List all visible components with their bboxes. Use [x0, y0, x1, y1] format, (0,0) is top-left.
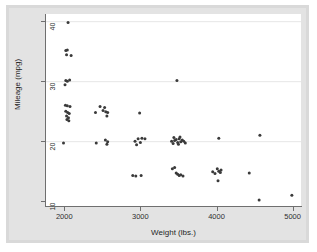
data-point [64, 83, 67, 86]
y-tick-label-20: 20 [49, 140, 56, 154]
x-tick-4000 [217, 207, 218, 211]
y-axis-title: Mileage (mpg) [13, 59, 22, 110]
data-point [217, 137, 220, 140]
data-point [65, 53, 68, 56]
gridlines [46, 22, 301, 142]
data-point [68, 112, 71, 115]
data-point [175, 79, 178, 82]
data-point [134, 140, 137, 143]
data-point [184, 142, 187, 145]
data-points [62, 21, 293, 202]
x-tick-2000 [64, 207, 65, 211]
data-point [137, 137, 140, 140]
data-point [139, 141, 142, 144]
data-point [217, 179, 220, 182]
data-point [172, 136, 175, 139]
data-point [134, 175, 137, 178]
y-tick-10 [41, 201, 45, 202]
data-point [106, 111, 109, 114]
data-point [62, 142, 65, 145]
data-point [103, 106, 106, 109]
data-point [102, 109, 105, 112]
y-axis-line [45, 14, 46, 207]
data-point [70, 54, 73, 57]
data-point [220, 169, 223, 172]
data-point [290, 194, 293, 197]
data-point [94, 111, 97, 114]
plot-svg [46, 14, 301, 206]
data-point [140, 137, 143, 140]
data-point [143, 137, 146, 140]
data-point [140, 174, 143, 177]
data-point [258, 134, 261, 137]
data-point [177, 143, 180, 146]
data-point [258, 199, 261, 202]
x-tick-5000 [293, 207, 294, 211]
data-point [67, 119, 70, 122]
x-tick-label-2000: 2000 [44, 212, 84, 221]
data-point [135, 143, 138, 146]
y-tick-label-40: 40 [49, 20, 56, 34]
data-point [106, 140, 109, 143]
data-point [67, 21, 70, 24]
x-tick-label-5000: 5000 [273, 212, 313, 221]
data-point [138, 112, 141, 115]
x-tick-label-3000: 3000 [120, 212, 160, 221]
data-point [248, 172, 251, 175]
data-point [95, 142, 98, 145]
data-point [99, 105, 102, 108]
x-axis-line [45, 206, 302, 207]
x-tick-3000 [140, 207, 141, 211]
data-point [64, 49, 67, 52]
y-tick-40 [41, 21, 45, 22]
y-tick-30 [41, 81, 45, 82]
data-point [173, 166, 176, 169]
x-tick-label-4000: 4000 [197, 212, 237, 221]
data-point [178, 136, 181, 139]
data-point [172, 142, 175, 145]
data-point [66, 104, 69, 107]
scatter-plot-figure: 10203040 2000300040005000 Weight (lbs.) … [0, 0, 317, 252]
y-tick-20 [41, 141, 45, 142]
y-tick-label-30: 30 [49, 80, 56, 94]
plot-region [46, 14, 301, 206]
data-point [182, 175, 185, 178]
data-point [68, 105, 71, 108]
data-point [68, 79, 71, 82]
data-point [131, 174, 134, 177]
x-axis-title: Weight (lbs.) [46, 228, 301, 237]
data-point [213, 172, 216, 175]
data-point [105, 115, 108, 118]
